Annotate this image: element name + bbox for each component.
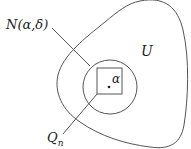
neighborhood-leader-line bbox=[52, 28, 90, 66]
neighborhood-label: N(α,δ) bbox=[6, 18, 48, 31]
cube-label-subscript: n bbox=[58, 138, 64, 148]
cube-label-base: Q bbox=[47, 130, 58, 145]
cube-qn-label: Qn bbox=[47, 131, 63, 148]
point-alpha-label: α bbox=[112, 73, 120, 85]
diagram-canvas: N(α,δ) U α Qn bbox=[0, 0, 191, 149]
point-alpha-dot bbox=[108, 86, 111, 89]
set-u-label: U bbox=[141, 44, 153, 58]
cube-leader-line bbox=[63, 94, 97, 134]
